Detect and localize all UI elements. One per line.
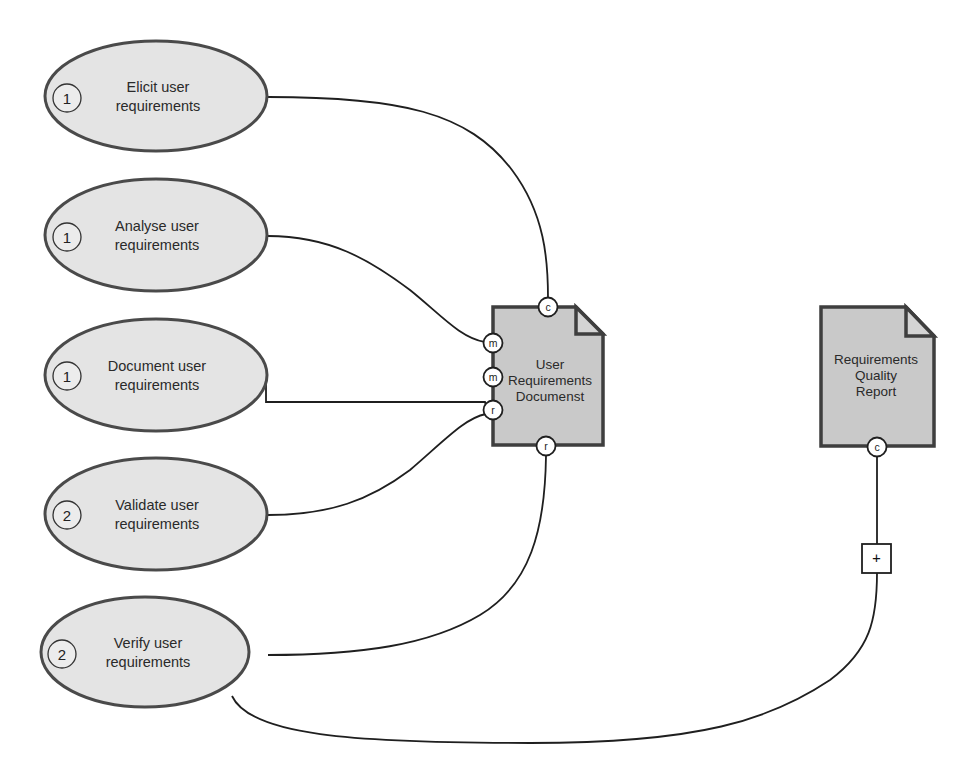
activity-verify[interactable]: 2 Verify user requirements bbox=[41, 597, 249, 707]
connector-document-to-urd bbox=[266, 382, 486, 406]
port-urd-top[interactable]: c bbox=[539, 298, 558, 317]
connector-elicit-to-urd bbox=[268, 97, 548, 298]
port-label: m bbox=[489, 371, 498, 383]
port-label: r bbox=[491, 404, 495, 416]
document-fold-corner bbox=[576, 307, 603, 334]
activity-elicit[interactable]: 1 Elicit user requirements bbox=[45, 41, 267, 151]
sequence-number: 1 bbox=[63, 368, 71, 385]
activity-label-line2: requirements bbox=[106, 654, 191, 670]
artifact-requirements-quality-report[interactable]: Requirements Quality Report bbox=[821, 307, 934, 446]
activity-label-line1: Verify user bbox=[114, 635, 183, 651]
document-label-line1: Requirements bbox=[834, 352, 918, 367]
document-fold-corner bbox=[906, 307, 934, 336]
port-urd-left-1[interactable]: m bbox=[484, 334, 503, 353]
port-label: c bbox=[545, 301, 550, 313]
port-urd-left-3[interactable]: r bbox=[484, 401, 503, 420]
artifact-user-requirements-document[interactable]: User Requirements Documenst bbox=[493, 307, 603, 445]
activity-label-line1: Elicit user bbox=[127, 79, 190, 95]
activity-validate[interactable]: 2 Validate user requirements bbox=[45, 458, 267, 570]
connector-plus-box[interactable]: + bbox=[862, 544, 891, 573]
port-rqr-bottom[interactable]: c bbox=[868, 438, 887, 457]
sequence-number: 2 bbox=[63, 507, 71, 524]
activity-label-line2: requirements bbox=[115, 377, 200, 393]
document-label-line2: Quality bbox=[855, 368, 897, 383]
activity-document[interactable]: 1 Document user requirements bbox=[45, 319, 267, 431]
plus-icon: + bbox=[872, 550, 880, 566]
connector-analyse-to-urd bbox=[268, 236, 485, 342]
port-urd-bottom[interactable]: r bbox=[537, 437, 556, 456]
port-label: m bbox=[489, 337, 498, 349]
connector-verify-to-rqr bbox=[232, 573, 877, 743]
document-label-line1: User bbox=[536, 357, 565, 372]
sequence-number: 1 bbox=[63, 229, 71, 246]
port-urd-left-2[interactable]: m bbox=[484, 368, 503, 387]
activity-label-line1: Validate user bbox=[115, 497, 199, 513]
process-diagram: 1 Elicit user requirements 1 Analyse use… bbox=[0, 0, 973, 781]
activity-analyse[interactable]: 1 Analyse user requirements bbox=[45, 179, 267, 291]
document-label-line3: Report bbox=[856, 384, 897, 399]
port-label: r bbox=[544, 440, 548, 452]
activity-label-line2: requirements bbox=[116, 98, 201, 114]
document-label-line3: Documenst bbox=[516, 389, 585, 404]
activity-label-line1: Document user bbox=[108, 358, 206, 374]
activity-label-line2: requirements bbox=[115, 237, 200, 253]
port-label: c bbox=[874, 441, 879, 453]
connector-validate-to-urd bbox=[268, 414, 486, 515]
sequence-number: 2 bbox=[58, 646, 66, 663]
activity-label-line1: Analyse user bbox=[115, 218, 199, 234]
document-label-line2: Requirements bbox=[508, 373, 592, 388]
connector-verify-to-urd bbox=[268, 456, 546, 655]
sequence-number: 1 bbox=[63, 90, 71, 107]
activity-label-line2: requirements bbox=[115, 516, 200, 532]
